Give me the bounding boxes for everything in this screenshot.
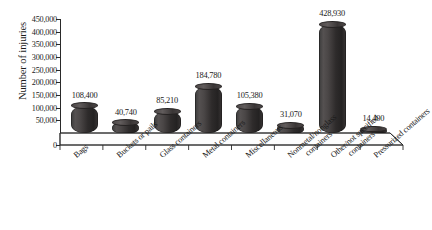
- y-tick-mark: [56, 95, 60, 96]
- y-tick-mark: [56, 145, 60, 146]
- x-axis-label: Buckets or pails: [115, 120, 160, 161]
- y-tick-mark: [56, 70, 60, 71]
- y-tick-mark: [56, 19, 60, 20]
- y-tick-mark: [56, 32, 60, 33]
- x-axis-label: Metal containers: [201, 118, 247, 160]
- x-axis-label-line: Buckets or pails: [115, 120, 159, 160]
- x-axis-label-line: Metal containers: [201, 118, 247, 159]
- y-tick-mark: [56, 120, 60, 121]
- x-axis-label: Miscellaneous: [244, 123, 285, 160]
- x-axis-label-line: Glass containers: [158, 119, 203, 160]
- y-tick-mark: [56, 82, 60, 83]
- y-tick-mark: [56, 44, 60, 45]
- x-axis-label: Bags: [72, 143, 90, 161]
- x-axis-label-line: Miscellaneous: [244, 123, 284, 160]
- y-tick-mark: [56, 57, 60, 58]
- x-axis-label: Pressurized containers: [372, 107, 432, 161]
- x-axis-label-line: Bags: [72, 143, 90, 160]
- y-tick-mark: [56, 108, 60, 109]
- x-axis-label: Glass containers: [158, 119, 203, 160]
